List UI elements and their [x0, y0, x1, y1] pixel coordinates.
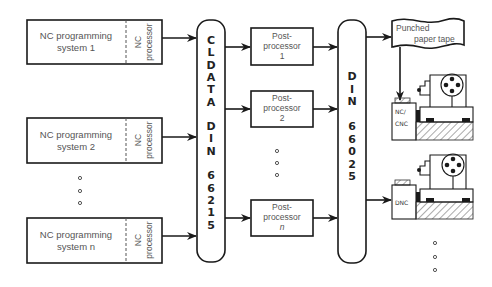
system-label-line2: system 2	[57, 141, 95, 152]
motor-housing	[420, 161, 430, 175]
programming-system-1: NC programming system 1 NC processor	[27, 20, 196, 64]
motor-knob	[417, 168, 421, 172]
workpiece-block	[426, 118, 434, 122]
motor-knob	[417, 88, 421, 92]
dot	[78, 201, 81, 204]
bus-letter: 6	[207, 169, 215, 182]
machine-bed	[416, 122, 473, 140]
system-label-line2: system n	[57, 241, 95, 252]
processor-label-line2: processor	[144, 121, 154, 158]
control-label-line1: NC/	[395, 108, 407, 115]
continuation-dots-systems	[78, 176, 81, 204]
dot	[275, 161, 278, 164]
programming-system-n: NC programming system n NC processor	[27, 218, 196, 263]
system-label-line1: NC programming	[40, 229, 112, 240]
paper-tape-line2: paper tape	[414, 34, 455, 44]
continuation-dots-postprocessors	[275, 149, 278, 176]
dot	[78, 189, 81, 192]
cldata-bus: CLDATADIN66215	[197, 20, 225, 262]
turret-tool	[457, 163, 462, 168]
turret-tool	[451, 169, 456, 174]
table-clamp	[416, 110, 420, 122]
turret-tool	[456, 83, 461, 88]
processor-label-line1: NC	[133, 36, 143, 48]
dot	[275, 173, 278, 176]
continuation-dots-machines	[433, 241, 436, 271]
bus-letter: A	[207, 71, 216, 84]
dot	[433, 268, 436, 271]
system-label-line1: NC programming	[40, 30, 112, 41]
bus-letter: A	[207, 96, 216, 109]
bus-letter: 1	[207, 206, 215, 219]
bus-letter: N	[206, 145, 215, 158]
paper-tape-line1: Punched	[396, 23, 430, 33]
processor-label-line1: NC	[133, 134, 143, 146]
bus-letter: 2	[207, 194, 215, 207]
nc-dataflow-diagram: NC programming system 1 NC processor NC …	[0, 0, 492, 287]
bus-letter: 6	[348, 133, 356, 146]
tape-reader	[395, 98, 410, 103]
bus-letter: N	[347, 95, 356, 108]
postprocessor-line2: processor	[263, 103, 300, 113]
bus-letter: T	[207, 83, 215, 96]
turret-tool	[450, 77, 455, 82]
machine-tool-2: DNC	[392, 154, 473, 219]
postprocessor-line3: n	[280, 222, 285, 232]
turret-tool	[445, 163, 450, 168]
bus-letter: 5	[348, 170, 356, 183]
processor-label-line2: processor	[144, 23, 154, 60]
postprocessor-line1: Post-	[272, 31, 292, 41]
control-label-line1: DNC	[395, 199, 408, 206]
workpiece-block	[462, 198, 470, 202]
postprocessor-1: Post- processor 1	[251, 28, 337, 65]
bus-letter: 2	[348, 158, 356, 171]
programming-system-2: NC programming system 2 NC processor	[27, 118, 196, 163]
bus-letter: I	[350, 83, 354, 96]
postprocessor-line2: processor	[263, 212, 300, 222]
dot	[433, 241, 436, 244]
postprocessor-line1: Post-	[272, 202, 292, 212]
dot	[78, 176, 81, 179]
spindle-housing	[430, 155, 466, 189]
turret-tool	[450, 89, 455, 94]
system-label-line1: NC programming	[40, 129, 112, 140]
bus-letter: 5	[207, 219, 215, 232]
bus-letter: L	[207, 46, 214, 59]
turret-tool	[451, 157, 456, 162]
turret-tool	[444, 83, 449, 88]
bus-letter: C	[207, 34, 215, 47]
postprocessor-n: Post- processor n	[251, 200, 337, 236]
postprocessor-line3: 2	[280, 113, 285, 123]
postprocessor-2: Post- processor 2	[251, 91, 337, 127]
machine-bed	[416, 202, 473, 219]
tape-reader	[395, 180, 410, 185]
system-label-line2: system 1	[57, 42, 95, 53]
workpiece-block	[426, 198, 434, 202]
bus-letter: D	[347, 70, 356, 83]
postprocessor-line2: processor	[263, 41, 300, 51]
cldata-label: CLDATADIN66215	[206, 34, 215, 232]
bus-letter: D	[206, 59, 215, 72]
workpiece-block	[462, 118, 470, 122]
processor-label-line1: NC	[133, 234, 143, 246]
punched-paper-tape: Punched paper tape	[392, 18, 464, 100]
postprocessor-line3: 1	[280, 51, 285, 61]
control-label-line2: CNC	[395, 120, 408, 127]
dot	[275, 149, 278, 152]
bus-letter: 6	[348, 120, 356, 133]
bus-letter: I	[209, 132, 213, 145]
bus-letter: 0	[348, 145, 356, 158]
postprocessor-line1: Post-	[272, 93, 292, 103]
motor-housing	[420, 81, 430, 95]
bus-letter: 6	[207, 182, 215, 195]
dot	[433, 255, 436, 258]
din-66025-bus: DIN66025	[338, 20, 366, 263]
table-clamp	[416, 192, 420, 202]
processor-label-line2: processor	[144, 221, 154, 258]
machine-tool-1: NC/ CNC	[392, 74, 473, 140]
bus-letter: D	[206, 120, 215, 133]
